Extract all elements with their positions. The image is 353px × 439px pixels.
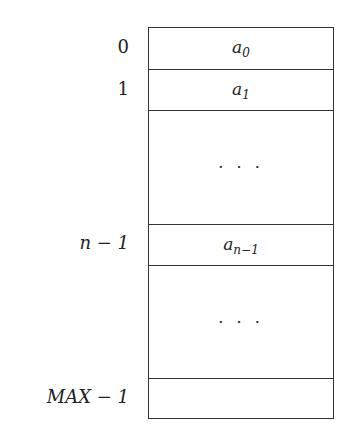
ellipsis: · · · <box>218 313 263 332</box>
index-label-max-minus-1: MAX − 1 <box>47 386 129 407</box>
array-cell-1: a1 <box>149 70 333 111</box>
index-label-0: 0 <box>118 36 129 57</box>
array-cell-max-minus-1 <box>149 379 333 417</box>
array-cell-n-minus-1: an−1 <box>149 225 333 266</box>
array-cell-0: a0 <box>149 28 333 70</box>
cell-value: a0 <box>232 37 250 60</box>
cell-value: an−1 <box>223 234 259 257</box>
array-gap-2: · · · <box>149 266 333 379</box>
array-box: a0 a1 · · · an−1 · · · <box>148 27 334 419</box>
index-label-1: 1 <box>118 78 129 99</box>
index-label-n-minus-1: n − 1 <box>79 232 129 253</box>
ellipsis: · · · <box>218 158 263 177</box>
array-gap-1: · · · <box>149 111 333 225</box>
cell-value: a1 <box>232 79 250 102</box>
